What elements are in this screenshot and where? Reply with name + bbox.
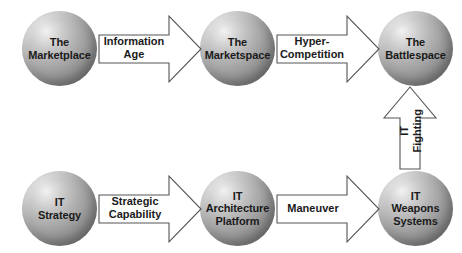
node-battlespace-line-2: Battlespace bbox=[385, 49, 446, 62]
node-it-weapons-systems[interactable]: IT Weapons Systems bbox=[378, 171, 453, 246]
arrow-hyper-competition-line-1: Hyper- bbox=[274, 35, 350, 48]
diagram-canvas: The Marketplace The Marketspace The Batt… bbox=[0, 0, 462, 253]
node-marketspace-line-2: Marketspace bbox=[205, 49, 271, 62]
arrow-information-age-label: Information Age bbox=[98, 35, 170, 61]
node-battlespace[interactable]: The Battlespace bbox=[378, 11, 453, 86]
node-it-weapons-systems-line-3: Systems bbox=[392, 215, 440, 228]
node-it-weapons-systems-label: IT Weapons Systems bbox=[392, 190, 440, 228]
arrow-strategic-capability-label: Strategic Capability bbox=[98, 195, 172, 221]
node-it-weapons-systems-line-1: IT bbox=[392, 190, 440, 203]
node-marketplace-line-2: Marketplace bbox=[28, 49, 91, 62]
node-it-architecture-platform-line-2: Architecture bbox=[206, 202, 270, 215]
node-it-strategy-line-2: Strategy bbox=[38, 209, 81, 222]
arrow-it-fighting-line-2: Fighting bbox=[411, 101, 424, 161]
node-marketplace-label: The Marketplace bbox=[28, 36, 91, 61]
arrow-information-age-line-1: Information bbox=[98, 35, 170, 48]
node-battlespace-line-1: The bbox=[385, 36, 446, 49]
arrow-strategic-capability-line-1: Strategic bbox=[98, 195, 172, 208]
arrow-it-fighting-line-1: IT bbox=[398, 101, 411, 161]
node-it-strategy-line-1: IT bbox=[38, 196, 81, 209]
arrow-information-age-line-2: Age bbox=[98, 48, 170, 61]
arrow-hyper-competition-label: Hyper- Competition bbox=[274, 35, 350, 61]
node-it-architecture-platform-line-3: Platform bbox=[206, 215, 270, 228]
arrow-hyper-competition-line-2: Competition bbox=[274, 48, 350, 61]
arrow-maneuver-line-1: Maneuver bbox=[276, 202, 350, 215]
node-it-architecture-platform-line-1: IT bbox=[206, 190, 270, 203]
node-it-architecture-platform[interactable]: IT Architecture Platform bbox=[200, 171, 275, 246]
arrow-it-fighting-label: IT Fighting bbox=[398, 101, 424, 161]
node-it-strategy-label: IT Strategy bbox=[38, 196, 81, 221]
arrow-strategic-capability-line-2: Capability bbox=[98, 208, 172, 221]
node-marketspace-label: The Marketspace bbox=[205, 36, 271, 61]
node-it-strategy[interactable]: IT Strategy bbox=[22, 171, 97, 246]
node-marketplace[interactable]: The Marketplace bbox=[22, 11, 97, 86]
arrow-maneuver-label: Maneuver bbox=[276, 202, 350, 215]
node-battlespace-label: The Battlespace bbox=[385, 36, 446, 61]
node-marketplace-line-1: The bbox=[28, 36, 91, 49]
node-it-architecture-platform-label: IT Architecture Platform bbox=[206, 190, 270, 228]
node-marketspace[interactable]: The Marketspace bbox=[200, 11, 275, 86]
node-it-weapons-systems-line-2: Weapons bbox=[392, 202, 440, 215]
node-marketspace-line-1: The bbox=[205, 36, 271, 49]
